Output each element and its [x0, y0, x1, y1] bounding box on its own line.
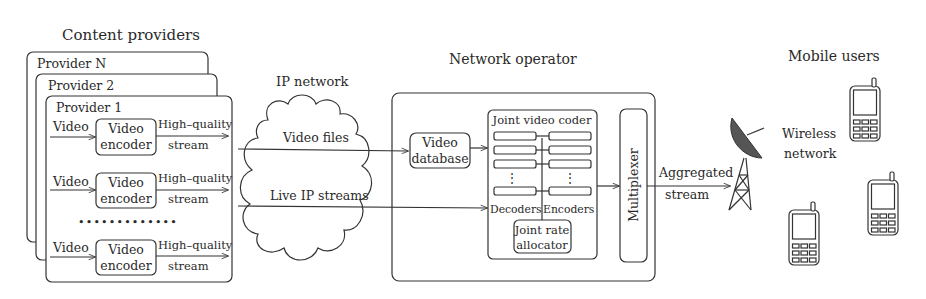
satellite-dish-tower-icon — [729, 118, 764, 210]
ellipsis-dots: ••••••••••••• — [78, 216, 178, 229]
encoder-label: encoder — [100, 137, 151, 152]
video-input-label: Video — [52, 119, 89, 134]
output-label: High–quality — [158, 171, 233, 185]
multiplexer-label: Multiplexer — [626, 148, 641, 222]
encoder-label: encoder — [100, 191, 151, 206]
mobile-users-title: Mobile users — [788, 48, 880, 64]
aggregated-label: stream — [665, 187, 709, 202]
cloud-icon — [240, 95, 371, 260]
decoders-label: Decoders — [490, 203, 542, 216]
video-database-box: Video database — [410, 133, 470, 168]
encoders-label: Encoders — [543, 203, 594, 216]
network-operator-title: Network operator — [449, 51, 577, 67]
mobile-phone-icon — [850, 78, 880, 141]
provider-1-panel: Provider 1 Video Video encoder High–qual… — [46, 96, 233, 282]
joint-video-coder-box: Joint video coder ⋮ ⋮ Decoders Encoders … — [488, 110, 597, 259]
provider-1-label: Provider 1 — [56, 100, 122, 115]
output-label: High–quality — [158, 238, 233, 252]
output-label: High–quality — [158, 117, 233, 131]
live-streams-label: Live IP streams — [270, 188, 369, 203]
output-label: stream — [168, 192, 209, 206]
encoder-label: Video — [107, 175, 144, 190]
encoder-label: Video — [107, 242, 144, 257]
video-files-arrow — [238, 149, 408, 151]
database-label: Video — [421, 135, 458, 150]
allocator-label: Joint rate — [514, 223, 570, 237]
content-providers-title: Content providers — [62, 26, 200, 44]
encoder-label: encoder — [100, 258, 151, 273]
output-label: stream — [168, 259, 209, 273]
encoder-label: Video — [107, 121, 144, 136]
allocator-label: allocator — [516, 238, 568, 252]
multiplexer-box: Multiplexer — [620, 109, 647, 262]
output-label: stream — [168, 138, 209, 152]
database-label: database — [411, 151, 468, 166]
mobile-phone-icon — [789, 202, 819, 265]
ip-network-title: IP network — [276, 74, 348, 89]
joint-rate-allocator-box: Joint rate allocator — [514, 220, 571, 253]
mobile-phone-icon — [868, 172, 898, 235]
provider-n-label: Provider N — [37, 56, 106, 71]
system-diagram: Content providers Provider N Provider 2 … — [0, 0, 926, 299]
provider-2-label: Provider 2 — [48, 78, 114, 93]
wireless-label: network — [784, 146, 837, 161]
video-input-label: Video — [52, 240, 89, 255]
video-input-label: Video — [52, 174, 89, 189]
vdots: ⋮ — [506, 171, 518, 185]
aggregated-label: Aggregated — [658, 165, 733, 180]
joint-coder-title: Joint video coder — [492, 113, 592, 127]
video-files-label: Video files — [282, 130, 349, 145]
wireless-label: Wireless — [782, 126, 836, 141]
vdots: ⋮ — [564, 171, 576, 185]
